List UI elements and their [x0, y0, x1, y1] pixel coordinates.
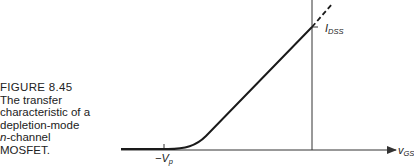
x-axis-label: vGS: [398, 144, 414, 158]
vp-label: −Vp: [155, 152, 173, 166]
transfer-curve: [121, 27, 312, 149]
idss-label: IDSS: [325, 22, 343, 36]
